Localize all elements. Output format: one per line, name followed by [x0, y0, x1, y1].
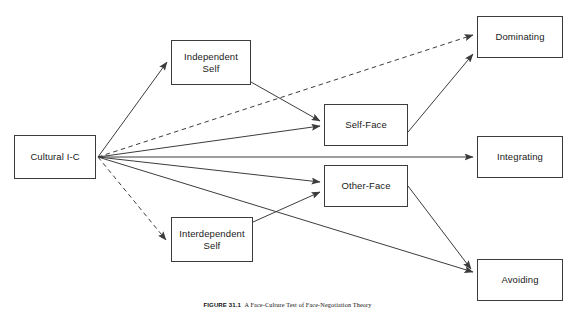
node-cultural-ic: Cultural I-C: [14, 135, 96, 179]
edge-cultural-ic-to-other-face: [98, 157, 320, 182]
edge-cultural-ic-to-interdependent-self: [98, 157, 166, 240]
figure-container: Cultural I-C Independent Self Interdepen…: [0, 0, 575, 317]
node-self-face: Self-Face: [324, 104, 408, 146]
node-cultural-ic-label: Cultural I-C: [27, 151, 82, 163]
edge-cultural-ic-to-self-face: [98, 126, 320, 157]
node-interdependent-self: Interdependent Self: [171, 217, 253, 262]
node-dominating-label: Dominating: [492, 31, 547, 43]
edge-cultural-ic-to-avoiding: [98, 157, 473, 272]
node-other-face-label: Other-Face: [338, 180, 393, 192]
node-other-face: Other-Face: [324, 165, 408, 207]
edge-cultural-ic-to-independent-self: [98, 62, 167, 157]
node-avoiding-label: Avoiding: [498, 274, 541, 286]
figure-caption: FIGURE 31.1 A Face-Culture Test of Face-…: [0, 301, 575, 308]
edge-other-face-to-avoiding: [408, 186, 471, 269]
edge-cultural-ic-to-dominating: [98, 35, 473, 157]
edge-self-face-to-dominating: [408, 54, 473, 132]
edge-independent-self-to-self-face: [251, 82, 320, 121]
node-independent-self-label: Independent Self: [181, 51, 241, 75]
node-dominating: Dominating: [477, 16, 563, 58]
node-independent-self: Independent Self: [171, 40, 251, 85]
figure-caption-text: A Face-Culture Test of Face-Negotiation …: [245, 301, 372, 308]
node-integrating: Integrating: [477, 136, 563, 178]
edge-interdependent-self-to-other-face: [253, 192, 320, 222]
node-interdependent-self-label: Interdependent Self: [176, 228, 247, 252]
node-avoiding: Avoiding: [477, 259, 563, 301]
edge-layer: [98, 35, 473, 272]
node-integrating-label: Integrating: [494, 151, 546, 163]
node-self-face-label: Self-Face: [342, 119, 390, 131]
figure-caption-number: FIGURE 31.1: [203, 302, 241, 308]
